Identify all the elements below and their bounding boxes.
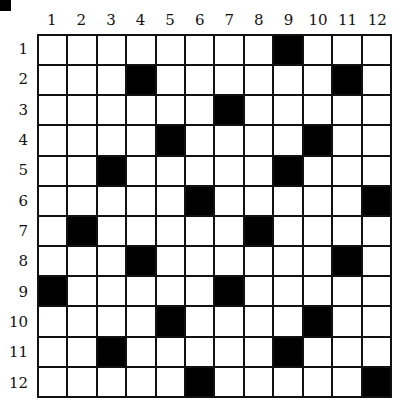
grid-cell[interactable] (215, 126, 242, 154)
grid-cell[interactable] (127, 96, 154, 124)
grid-cell[interactable] (304, 338, 331, 366)
grid-cell[interactable] (274, 187, 301, 215)
grid-cell[interactable] (39, 368, 66, 396)
grid-cell[interactable] (39, 157, 66, 185)
grid-cell[interactable] (363, 247, 390, 275)
grid-cell[interactable] (333, 368, 360, 396)
grid-cell[interactable] (245, 157, 272, 185)
grid-cell[interactable] (157, 36, 184, 64)
grid-cell[interactable] (215, 338, 242, 366)
grid-cell[interactable] (274, 66, 301, 94)
grid-cell[interactable] (304, 36, 331, 64)
grid-cell[interactable] (39, 187, 66, 215)
grid-cell[interactable] (39, 217, 66, 245)
grid-cell[interactable] (274, 217, 301, 245)
grid-cell[interactable] (98, 66, 125, 94)
grid-cell[interactable] (186, 247, 213, 275)
grid-cell[interactable] (245, 368, 272, 396)
grid-cell[interactable] (215, 217, 242, 245)
grid-cell[interactable] (304, 247, 331, 275)
grid-cell[interactable] (39, 126, 66, 154)
grid-cell[interactable] (245, 247, 272, 275)
grid-cell[interactable] (186, 307, 213, 335)
grid-cell[interactable] (245, 126, 272, 154)
grid-cell[interactable] (68, 338, 95, 366)
grid-cell[interactable] (215, 36, 242, 64)
grid-cell[interactable] (215, 247, 242, 275)
grid-cell[interactable] (98, 217, 125, 245)
grid-cell[interactable] (186, 66, 213, 94)
grid-cell[interactable] (98, 247, 125, 275)
grid-cell[interactable] (333, 126, 360, 154)
grid-cell[interactable] (363, 277, 390, 305)
grid-cell[interactable] (333, 36, 360, 64)
grid-cell[interactable] (245, 307, 272, 335)
grid-cell[interactable] (98, 96, 125, 124)
grid-cell[interactable] (274, 277, 301, 305)
grid-cell[interactable] (304, 66, 331, 94)
grid-cell[interactable] (127, 307, 154, 335)
grid-cell[interactable] (127, 338, 154, 366)
grid-cell[interactable] (157, 187, 184, 215)
grid-cell[interactable] (333, 157, 360, 185)
grid-cell[interactable] (215, 368, 242, 396)
grid-cell[interactable] (215, 66, 242, 94)
grid-cell[interactable] (98, 307, 125, 335)
grid-cell[interactable] (68, 277, 95, 305)
grid-cell[interactable] (98, 187, 125, 215)
grid-cell[interactable] (274, 96, 301, 124)
grid-cell[interactable] (186, 96, 213, 124)
grid-cell[interactable] (39, 307, 66, 335)
grid-cell[interactable] (245, 96, 272, 124)
grid-cell[interactable] (39, 66, 66, 94)
grid-cell[interactable] (127, 368, 154, 396)
grid-cell[interactable] (304, 96, 331, 124)
grid-cell[interactable] (363, 307, 390, 335)
grid-cell[interactable] (157, 66, 184, 94)
grid-cell[interactable] (68, 247, 95, 275)
grid-cell[interactable] (333, 307, 360, 335)
grid-cell[interactable] (363, 96, 390, 124)
grid-cell[interactable] (363, 217, 390, 245)
grid-cell[interactable] (157, 247, 184, 275)
grid-cell[interactable] (363, 126, 390, 154)
grid-cell[interactable] (333, 277, 360, 305)
grid-cell[interactable] (98, 126, 125, 154)
grid-cell[interactable] (304, 187, 331, 215)
grid-cell[interactable] (186, 277, 213, 305)
grid-cell[interactable] (304, 157, 331, 185)
grid-cell[interactable] (333, 187, 360, 215)
grid-cell[interactable] (274, 126, 301, 154)
grid-cell[interactable] (245, 277, 272, 305)
grid-cell[interactable] (333, 217, 360, 245)
grid-cell[interactable] (39, 338, 66, 366)
grid-cell[interactable] (157, 277, 184, 305)
grid-cell[interactable] (274, 307, 301, 335)
grid-cell[interactable] (274, 247, 301, 275)
grid-cell[interactable] (186, 217, 213, 245)
grid-cell[interactable] (245, 36, 272, 64)
grid-cell[interactable] (98, 277, 125, 305)
grid-cell[interactable] (186, 157, 213, 185)
grid-cell[interactable] (127, 36, 154, 64)
grid-cell[interactable] (333, 338, 360, 366)
grid-cell[interactable] (333, 96, 360, 124)
grid-cell[interactable] (39, 96, 66, 124)
grid-cell[interactable] (245, 338, 272, 366)
grid-cell[interactable] (68, 66, 95, 94)
grid-cell[interactable] (127, 187, 154, 215)
grid-cell[interactable] (127, 217, 154, 245)
grid-cell[interactable] (363, 338, 390, 366)
grid-cell[interactable] (68, 126, 95, 154)
grid-cell[interactable] (304, 368, 331, 396)
grid-cell[interactable] (68, 187, 95, 215)
grid-cell[interactable] (363, 66, 390, 94)
grid-cell[interactable] (245, 187, 272, 215)
grid-cell[interactable] (68, 157, 95, 185)
grid-cell[interactable] (68, 307, 95, 335)
grid-cell[interactable] (186, 126, 213, 154)
grid-cell[interactable] (304, 217, 331, 245)
grid-cell[interactable] (127, 277, 154, 305)
grid-cell[interactable] (127, 126, 154, 154)
grid-cell[interactable] (215, 187, 242, 215)
